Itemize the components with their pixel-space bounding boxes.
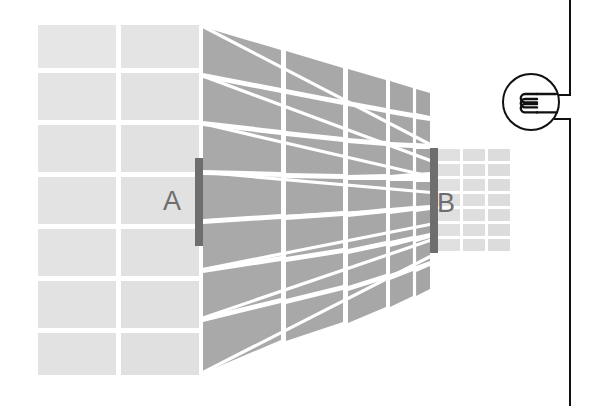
figure-canvas: A B xyxy=(0,0,595,406)
perspective-corridor-illustration xyxy=(0,0,595,406)
circuit-wire xyxy=(555,0,570,406)
marker-bar-a xyxy=(195,158,203,246)
label-b: B xyxy=(437,190,455,217)
label-a: A xyxy=(163,188,181,215)
solenoid-coil-icon xyxy=(503,74,559,130)
side-wall-grid xyxy=(200,25,437,375)
